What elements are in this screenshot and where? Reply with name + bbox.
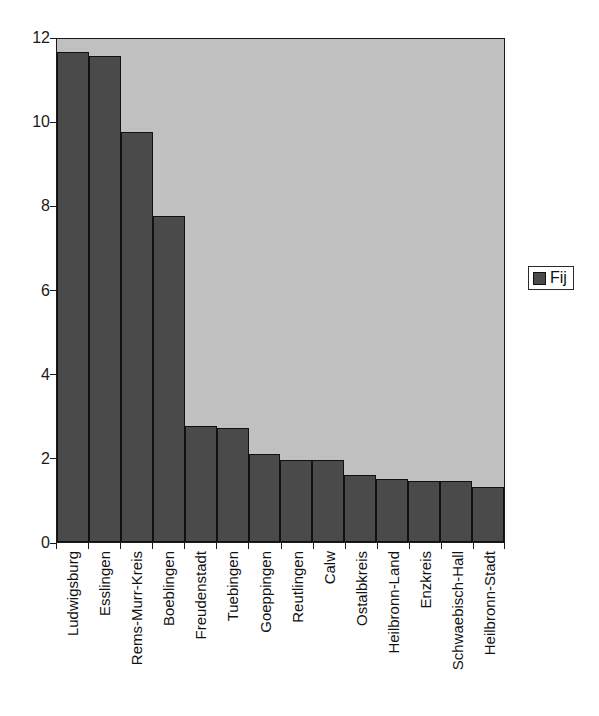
x-axis-label: Ludwigsburg xyxy=(65,551,80,636)
x-axis-tick-mark xyxy=(152,543,153,549)
bar xyxy=(57,52,89,542)
x-axis-tick-mark xyxy=(248,543,249,549)
x-axis-tick xyxy=(88,543,120,549)
x-axis-tick xyxy=(281,543,313,549)
bar xyxy=(472,487,504,542)
y-axis: 024681012 xyxy=(0,38,56,543)
bar xyxy=(344,475,376,542)
bar xyxy=(376,479,408,542)
x-axis-tick-mark xyxy=(56,543,57,549)
x-axis-label-slot: Esslingen xyxy=(88,551,120,711)
bar xyxy=(249,454,281,542)
x-axis-label-slot: Heilbronn-Stadt xyxy=(473,551,505,711)
x-axis-label-slot: Tuebingen xyxy=(216,551,248,711)
x-axis-tick-mark xyxy=(409,543,410,549)
x-axis-label: Boeblingen xyxy=(161,551,176,626)
x-axis-ticks xyxy=(56,543,505,549)
bar xyxy=(185,426,217,542)
x-axis-tick-mark xyxy=(184,543,185,549)
x-axis-tick-mark xyxy=(504,543,505,549)
x-axis-tick-mark xyxy=(313,543,314,549)
bars-layer xyxy=(57,39,504,542)
bar xyxy=(312,460,344,542)
x-axis-tick xyxy=(56,543,88,549)
x-axis-label-slot: Enzkreis xyxy=(409,551,441,711)
bar xyxy=(153,216,185,542)
x-axis-tick xyxy=(313,543,345,549)
x-axis-label-slot: Goeppingen xyxy=(248,551,280,711)
x-axis-label-slot: Heilbronn-Land xyxy=(377,551,409,711)
x-axis-label: Esslingen xyxy=(97,551,112,616)
x-axis-label-slot: Rems-Murr-Kreis xyxy=(120,551,152,711)
legend: Fij xyxy=(528,266,574,290)
x-axis-label: Calw xyxy=(321,551,336,584)
bar xyxy=(440,481,472,542)
x-axis-tick-mark xyxy=(216,543,217,549)
x-axis-tick-mark xyxy=(345,543,346,549)
x-axis-label: Freudenstadt xyxy=(193,551,208,639)
x-axis-label-slot: Schwaebisch-Hall xyxy=(441,551,473,711)
x-axis-tick xyxy=(377,543,409,549)
x-axis-label: Tuebingen xyxy=(225,551,240,621)
x-axis-label: Heilbronn-Land xyxy=(385,551,400,654)
legend-label-fij: Fij xyxy=(550,270,567,286)
x-axis-label-slot: Boeblingen xyxy=(152,551,184,711)
bar xyxy=(408,481,440,542)
bar-chart: 024681012 LudwigsburgEsslingenRems-Murr-… xyxy=(0,0,599,716)
x-axis-label-slot: Freudenstadt xyxy=(184,551,216,711)
bar xyxy=(121,132,153,542)
x-axis-label: Rems-Murr-Kreis xyxy=(129,551,144,665)
x-axis-tick-mark xyxy=(88,543,89,549)
x-axis-tick xyxy=(120,543,152,549)
x-axis-label-slot: Reutlingen xyxy=(281,551,313,711)
x-axis-label-slot: Calw xyxy=(313,551,345,711)
x-axis-label: Reutlingen xyxy=(289,551,304,623)
x-axis-label: Goeppingen xyxy=(257,551,272,633)
x-axis-tick-mark xyxy=(441,543,442,549)
bar xyxy=(89,56,121,542)
x-axis-tick xyxy=(345,543,377,549)
x-axis-label: Heilbronn-Stadt xyxy=(482,551,497,655)
legend-swatch-fij xyxy=(533,272,546,285)
x-axis-tick-mark xyxy=(473,543,474,549)
x-axis-tick xyxy=(248,543,280,549)
bar xyxy=(280,460,312,542)
x-axis-labels: LudwigsburgEsslingenRems-Murr-KreisBoebl… xyxy=(56,551,505,711)
x-axis-tick xyxy=(184,543,216,549)
x-axis-tick xyxy=(473,543,505,549)
x-axis-tick-mark xyxy=(377,543,378,549)
x-axis-label: Enzkreis xyxy=(417,551,432,609)
x-axis-tick xyxy=(216,543,248,549)
x-axis-tick-mark xyxy=(281,543,282,549)
x-axis-label: Schwaebisch-Hall xyxy=(449,551,464,670)
x-axis-tick-mark xyxy=(120,543,121,549)
x-axis-label-slot: Ludwigsburg xyxy=(56,551,88,711)
x-axis-tick xyxy=(441,543,473,549)
bar xyxy=(217,428,249,542)
x-axis xyxy=(56,543,505,544)
x-axis-tick xyxy=(152,543,184,549)
x-axis-label: Ostalbkreis xyxy=(353,551,368,626)
x-axis-label-slot: Ostalbkreis xyxy=(345,551,377,711)
x-axis-tick xyxy=(409,543,441,549)
plot-area xyxy=(56,38,505,543)
